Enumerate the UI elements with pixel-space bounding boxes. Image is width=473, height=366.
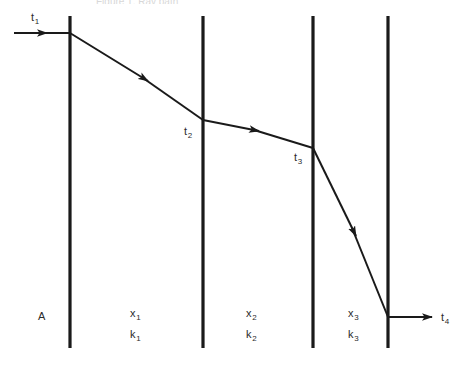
label-x2: x2 [246,308,257,322]
label-k1-sub: 1 [136,334,141,343]
label-k1-base: k [130,328,136,340]
ray-segment-2 [203,120,259,131]
label-x3: x3 [348,308,359,322]
label-k2-sub: 2 [252,334,257,343]
label-k2-base: k [246,328,252,340]
label-t2: t2 [184,126,192,140]
label-k2: k2 [246,329,257,343]
ray-path [14,33,432,317]
label-k3-base: k [348,328,354,340]
label-t4-sub: 4 [444,317,449,326]
label-k1: k1 [130,329,141,343]
label-x1-sub: 1 [136,313,141,322]
ray-path-figure: Figure 1. Ray path t1 t2 [0,0,473,366]
ray-segment-3-tail [352,228,388,317]
ray-segment-2-tail [254,130,313,148]
interface-lines [70,16,388,348]
label-t4: t4 [441,312,449,326]
label-t3-sub: 3 [297,157,302,166]
label-k3: k3 [348,329,359,343]
ray-segment-1-tail [143,78,203,120]
label-x2-sub: 2 [252,313,257,322]
ray-segment-1 [70,33,148,81]
label-x1-base: x [130,307,136,319]
label-medium-a-base: A [38,310,46,322]
label-x1: x1 [130,308,141,322]
ray-path-drawing [0,0,473,366]
label-t1-sub: 1 [34,17,39,26]
label-t2-sub: 2 [187,131,192,140]
label-x3-sub: 3 [354,313,359,322]
label-x2-base: x [246,307,252,319]
label-t1: t1 [31,12,39,26]
label-k3-sub: 3 [354,334,359,343]
label-t3: t3 [294,152,302,166]
label-medium-a: A [38,311,46,322]
label-x3-base: x [348,307,354,319]
ray-segment-3 [313,148,356,236]
